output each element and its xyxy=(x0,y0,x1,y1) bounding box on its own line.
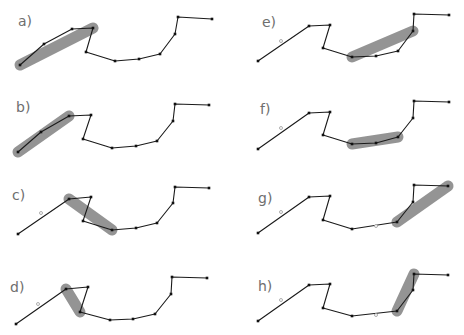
removed-point-marker xyxy=(40,212,43,215)
panel-label: d) xyxy=(10,279,24,295)
vertex-dot xyxy=(397,136,400,139)
vertex-dot xyxy=(413,100,416,103)
vertex-dot xyxy=(159,53,162,56)
vertex-dot xyxy=(413,273,416,276)
removed-point-marker xyxy=(280,299,283,302)
panel-a: a) xyxy=(18,13,213,66)
panel-label: f) xyxy=(260,101,270,117)
vertex-dot xyxy=(448,14,451,17)
panel-label: b) xyxy=(16,99,30,115)
vertex-dot xyxy=(413,184,416,187)
vertex-dot xyxy=(79,311,82,314)
vertex-dot xyxy=(111,147,114,150)
vertex-dot xyxy=(90,196,93,199)
vertex-dot xyxy=(322,47,325,50)
vertex-dot xyxy=(329,283,332,286)
vertex-dot xyxy=(413,13,416,16)
vertex-dot xyxy=(40,131,43,134)
vertex-dot xyxy=(177,16,180,19)
vertex-dot xyxy=(132,318,135,321)
vertex-dot xyxy=(17,233,20,236)
vertex-dot xyxy=(322,307,325,310)
vertex-dot xyxy=(68,198,71,201)
vertex-dot xyxy=(351,228,354,231)
vertex-dot xyxy=(174,103,177,106)
highlight-segment xyxy=(18,116,69,152)
vertex-dot xyxy=(257,320,260,323)
vertex-dot xyxy=(111,229,114,232)
panel-label: e) xyxy=(262,14,276,30)
vertex-dot xyxy=(15,323,18,326)
vertex-dot xyxy=(308,25,311,28)
removed-point-marker xyxy=(280,127,283,130)
vertex-dot xyxy=(412,117,415,120)
vertex-dot xyxy=(257,60,260,63)
vertex-dot xyxy=(43,43,46,46)
vertex-dot xyxy=(308,196,311,199)
vertex-dot xyxy=(17,151,20,154)
removed-point-marker xyxy=(280,40,283,43)
vertex-dot xyxy=(138,58,141,61)
vertex-dot xyxy=(257,148,260,151)
vertex-dot xyxy=(257,232,260,235)
vertex-dot xyxy=(174,186,177,189)
highlight-segment xyxy=(69,199,112,230)
vertex-dot xyxy=(351,315,354,318)
vertex-dot xyxy=(82,138,85,141)
vertex-dot xyxy=(396,310,399,313)
panel-c: c) xyxy=(12,186,210,236)
vertex-dot xyxy=(87,286,90,289)
vertex-dot xyxy=(90,114,93,117)
panel-label: c) xyxy=(12,187,25,203)
vertex-dot xyxy=(172,120,175,123)
polyline-path xyxy=(20,17,212,65)
panel-g: g) xyxy=(257,184,450,235)
vertex-dot xyxy=(172,202,175,205)
vertex-dot xyxy=(171,276,174,279)
vertex-dot xyxy=(82,220,85,223)
vertex-dot xyxy=(447,185,450,188)
panel-label: g) xyxy=(258,190,272,206)
vertex-dot xyxy=(19,64,22,67)
vertex-dot xyxy=(412,201,415,204)
vertex-dot xyxy=(329,24,332,27)
vertex-dot xyxy=(92,27,95,30)
removed-point-marker xyxy=(375,314,378,317)
vertex-dot xyxy=(156,222,159,225)
vertex-dot xyxy=(85,51,88,54)
highlight-segment xyxy=(66,289,80,312)
panel-d: d) xyxy=(10,276,208,326)
panel-e: e) xyxy=(257,13,451,63)
vertex-dot xyxy=(65,288,68,291)
vertex-dot xyxy=(375,142,378,145)
vertex-dot xyxy=(114,60,117,63)
panel-label: a) xyxy=(18,13,32,29)
polyline-figure: a) b) c) d) e) f) g) h) xyxy=(0,0,464,335)
vertex-dot xyxy=(308,284,311,287)
panel-h: h) xyxy=(257,273,450,323)
removed-point-marker xyxy=(375,225,378,228)
vertex-dot xyxy=(135,227,138,230)
vertex-dot xyxy=(211,18,214,21)
vertex-dot xyxy=(308,112,311,115)
vertex-dot xyxy=(329,111,332,114)
vertex-dot xyxy=(375,55,378,58)
panel-f: f) xyxy=(257,100,451,151)
vertex-dot xyxy=(412,30,415,33)
highlight-segment xyxy=(397,186,448,222)
vertex-dot xyxy=(109,319,112,322)
panel-label: h) xyxy=(258,278,272,294)
vertex-dot xyxy=(351,56,354,59)
vertex-dot xyxy=(447,274,450,277)
vertex-dot xyxy=(206,277,209,280)
vertex-dot xyxy=(68,115,71,118)
vertex-dot xyxy=(71,28,74,31)
vertex-dot xyxy=(329,195,332,198)
vertex-dot xyxy=(397,50,400,53)
vertex-dot xyxy=(322,219,325,222)
vertex-dot xyxy=(170,293,173,296)
vertex-dot xyxy=(156,140,159,143)
highlight-segment xyxy=(20,28,93,65)
vertex-dot xyxy=(135,145,138,148)
vertex-dot xyxy=(154,313,157,316)
